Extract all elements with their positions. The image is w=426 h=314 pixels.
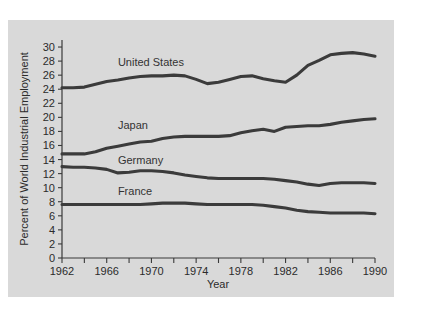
x-axis-title: Year: [207, 278, 230, 290]
y-tick-label: 4: [49, 224, 55, 236]
y-tick-label: 6: [49, 210, 55, 222]
series-label-france: France: [118, 185, 152, 197]
y-tick-label: 22: [43, 97, 55, 109]
series-label-germany: Germany: [118, 154, 164, 166]
series-line-france: [62, 203, 375, 214]
x-tick-label: 1978: [229, 265, 253, 277]
y-axis-title: Percent of World Industrial Employment: [18, 52, 30, 246]
series-group: [62, 53, 375, 214]
y-tick-label: 18: [43, 125, 55, 137]
y-tick-label: 24: [43, 83, 55, 95]
y-tick-label: 8: [49, 196, 55, 208]
y-tick-label: 10: [43, 182, 55, 194]
x-axis: 19621966197019741978198219861990: [50, 258, 387, 277]
y-tick-label: 2: [49, 238, 55, 250]
y-axis: 024681012141618202224262830: [43, 40, 62, 264]
y-tick-label: 20: [43, 111, 55, 123]
series-line-germany: [62, 167, 375, 186]
y-tick-label: 28: [43, 55, 55, 67]
x-tick-label: 1986: [318, 265, 342, 277]
line-chart: 024681012141618202224262830 196219661970…: [0, 0, 426, 314]
y-tick-label: 14: [43, 154, 55, 166]
series-label-united-states: United States: [118, 56, 185, 68]
x-tick-group: 19621966197019741978198219861990: [50, 258, 387, 277]
x-tick-label: 1970: [139, 265, 163, 277]
x-tick-label: 1962: [50, 265, 74, 277]
y-tick-label: 12: [43, 168, 55, 180]
y-tick-label: 30: [43, 41, 55, 53]
y-tick-label: 0: [49, 252, 55, 264]
x-tick-label: 1966: [94, 265, 118, 277]
series-line-united-states: [62, 53, 375, 88]
x-tick-label: 1974: [184, 265, 208, 277]
series-label-japan: Japan: [118, 119, 148, 131]
series-line-japan: [62, 119, 375, 154]
y-tick-label: 26: [43, 69, 55, 81]
chart-figure: 024681012141618202224262830 196219661970…: [0, 0, 426, 314]
y-tick-label: 16: [43, 139, 55, 151]
x-tick-label: 1982: [273, 265, 297, 277]
x-tick-label: 1990: [363, 265, 387, 277]
y-tick-group: 024681012141618202224262830: [43, 41, 62, 264]
